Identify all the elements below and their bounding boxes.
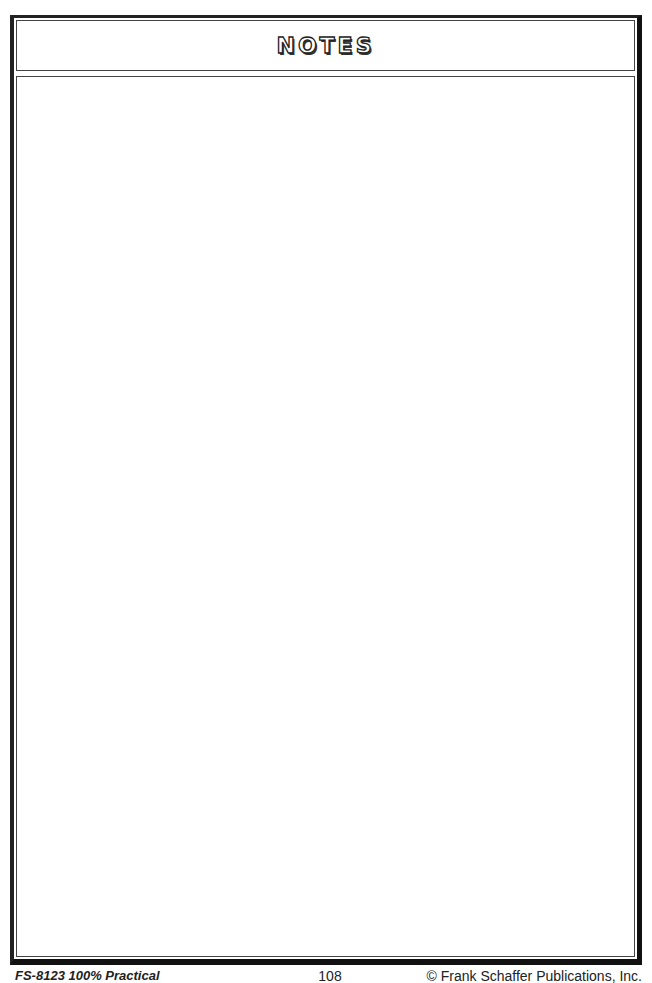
page-number: 108 [318, 968, 341, 983]
copyright-notice: © Frank Schaffer Publications, Inc. [427, 968, 643, 983]
page-frame: NOTES [10, 15, 642, 965]
page-footer: FS-8123 100% Practical 108 © Frank Schaf… [15, 968, 642, 983]
product-code: FS-8123 100% Practical [15, 968, 160, 983]
notes-area [16, 76, 635, 957]
page-title: NOTES [277, 33, 375, 58]
title-banner: NOTES [16, 20, 635, 71]
